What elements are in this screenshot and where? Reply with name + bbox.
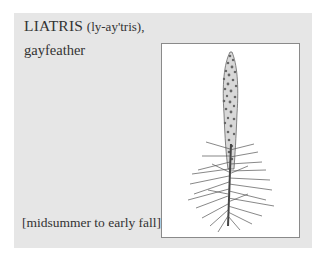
liatris-flower-icon xyxy=(162,44,299,237)
plant-entry-card: LIATRIS (ly-ay'tris), gayfeather [midsum… xyxy=(14,13,312,248)
illustration-frame xyxy=(161,43,300,238)
plant-title: LIATRIS (ly-ay'tris), xyxy=(24,17,144,35)
pronunciation: (ly-ay'tris), xyxy=(87,19,145,34)
genus-name: LIATRIS xyxy=(24,17,83,34)
bloom-season: [midsummer to early fall] xyxy=(22,215,161,231)
common-name: gayfeather xyxy=(24,42,85,59)
